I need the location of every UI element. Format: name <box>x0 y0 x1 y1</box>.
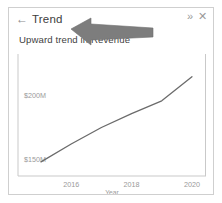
revenue-trend-chart: $200M $150M 2016 2018 2020 Year <box>9 54 214 195</box>
insight-description: Upward trend in Revenue <box>19 34 130 45</box>
close-icon[interactable]: ✕ <box>198 11 207 22</box>
page-title: Trend <box>32 13 63 25</box>
y-tick-label: $200M <box>24 91 46 100</box>
y-tick-label: $150M <box>24 155 46 164</box>
panel-header: ← Trend » ✕ <box>9 8 213 30</box>
trend-insight-panel: ← Trend » ✕ Upward trend in Revenue $200… <box>8 7 214 195</box>
chart-svg: $200M $150M 2016 2018 2020 Year <box>9 54 214 195</box>
expand-icon[interactable]: » <box>187 11 193 22</box>
x-tick-label: 2016 <box>63 180 79 189</box>
x-tick-label: 2018 <box>124 180 140 189</box>
x-axis-title: Year <box>105 189 119 195</box>
trend-line <box>41 77 192 162</box>
x-tick-label: 2020 <box>184 180 200 189</box>
back-arrow-icon[interactable]: ← <box>16 13 28 25</box>
header-actions: » ✕ <box>187 11 207 22</box>
